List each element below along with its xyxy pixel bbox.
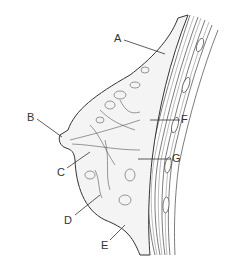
leader-line-a (124, 40, 165, 54)
label-g: G (172, 153, 181, 164)
leader-line-b (37, 119, 62, 137)
breast-outline (59, 15, 188, 255)
leader-line-e (110, 225, 125, 240)
label-c: C (57, 167, 65, 178)
label-b: B (27, 112, 34, 123)
label-d: D (64, 215, 72, 226)
label-f: F (181, 114, 188, 125)
label-e: E (101, 240, 108, 251)
label-a: A (114, 33, 121, 44)
